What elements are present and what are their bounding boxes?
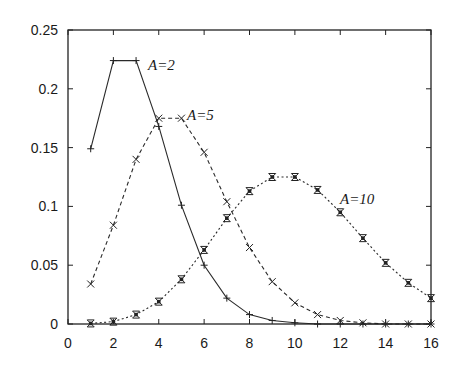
x-tick-label: 14 [378,335,394,351]
asterisk-marker-center [316,188,320,192]
asterisk-marker-center [407,281,411,285]
series-line [91,177,431,323]
plus-marker-icon [178,202,185,209]
x-axis-tick-labels: 0246810121416 [64,335,439,351]
x-tick-label: 10 [287,335,303,351]
series-a-10 [87,174,434,327]
series-line [91,61,431,324]
cross-marker-icon [201,149,208,156]
asterisk-marker-center [157,300,161,304]
asterisk-marker-center [270,175,274,179]
cross-marker-icon [110,222,117,229]
plus-marker-icon [155,123,162,130]
y-tick-label: 0.05 [31,257,58,273]
series-label: A=2 [147,57,175,73]
plus-marker-icon [110,57,117,64]
plus-marker-icon [87,145,94,152]
series-a-5 [87,115,434,328]
asterisk-marker-center [202,248,206,252]
y-tick-label: 0.1 [39,198,59,214]
plot-frame [68,30,431,324]
cross-marker-icon [269,278,276,285]
cross-marker-icon [291,299,298,306]
cross-marker-icon [133,156,140,163]
series-a-2 [87,57,434,327]
cross-marker-icon [314,311,321,318]
cross-marker-icon [246,244,253,251]
asterisk-marker-center [361,236,365,240]
x-tick-label: 0 [64,335,72,351]
asterisk-marker-center [180,278,184,282]
asterisk-marker-center [384,261,388,265]
y-tick-label: 0.2 [39,81,59,97]
series-label: A=10 [339,191,375,207]
plus-marker-icon [133,57,140,64]
plus-marker-icon [223,295,230,302]
x-tick-label: 8 [246,335,254,351]
y-tick-label: 0.15 [31,140,58,156]
asterisk-marker-center [225,216,229,220]
series-line [91,118,431,324]
y-tick-label: 0 [50,316,58,332]
y-tick-label: 0.25 [31,22,58,38]
series-layer [87,57,434,327]
y-axis-tick-labels: 00.050.10.150.20.25 [31,22,58,332]
x-tick-label: 6 [200,335,208,351]
x-tick-label: 12 [332,335,348,351]
axis-ticks [68,30,431,324]
asterisk-marker-center [134,313,138,317]
plus-marker-icon [269,317,276,324]
cross-marker-icon [223,198,230,205]
cross-marker-icon [87,281,94,288]
x-tick-label: 2 [109,335,117,351]
line-chart: 0246810121416 00.050.10.150.20.25 A=2A=5… [0,0,464,373]
series-label: A=5 [186,107,214,123]
asterisk-marker-center [338,210,342,214]
asterisk-marker-center [248,189,252,193]
plus-marker-icon [201,262,208,269]
x-tick-label: 4 [155,335,163,351]
series-labels: A=2A=5A=10 [147,57,375,207]
x-tick-label: 16 [423,335,439,351]
asterisk-marker-center [293,175,297,179]
